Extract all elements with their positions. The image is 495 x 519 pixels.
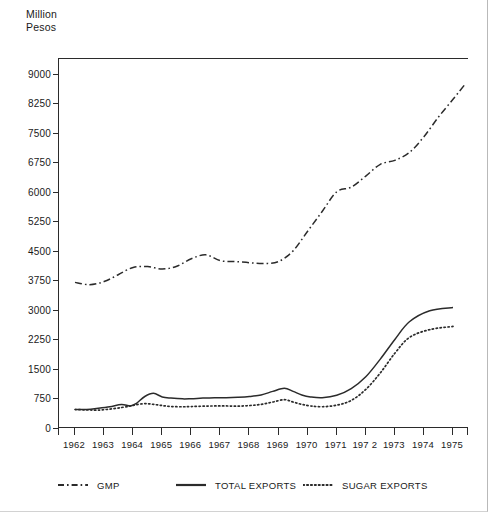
y-axis-tick-label: 9000: [28, 68, 51, 79]
x-axis-tick-label: 1965: [150, 439, 172, 450]
legend-line-swatch: [303, 480, 333, 490]
y-axis-tick-label: 5250: [28, 216, 51, 227]
x-axis-tick-label: 1966: [179, 439, 201, 450]
x-axis-tick-mark: [365, 428, 366, 435]
x-axis-tick-mark: [132, 428, 133, 435]
y-axis-title: Million Pesos: [26, 8, 57, 34]
y-axis-tick-mark: [53, 162, 59, 163]
y-axis-tick-mark: [53, 221, 59, 222]
x-axis-tick-mark: [336, 428, 337, 435]
x-axis-start-tick: [58, 428, 59, 435]
y-axis-tick-label: 6000: [28, 186, 51, 197]
x-axis-tick-mark: [248, 428, 249, 435]
x-axis-tick-label: 1973: [383, 439, 405, 450]
legend-label: GMP: [97, 480, 120, 491]
legend-item-sugar-exports[interactable]: SUGAR EXPORTS: [303, 477, 428, 493]
y-axis-tick-mark: [53, 369, 59, 370]
legend-line-swatch: [176, 480, 206, 490]
x-axis-tick-mark: [278, 428, 279, 435]
legend-label: TOTAL EXPORTS: [215, 480, 296, 491]
x-axis-tick-mark: [307, 428, 308, 435]
x-axis-tick-label: 1974: [412, 439, 434, 450]
series-line-gmp: [75, 85, 465, 285]
x-axis-tick-label: 1971: [325, 439, 347, 450]
x-axis-tick-mark: [190, 428, 191, 435]
x-axis-tick-label: 1967: [208, 439, 230, 450]
series-line-sugar-exports: [75, 326, 453, 410]
x-axis-tick-mark: [452, 428, 453, 435]
y-axis-tick-mark: [53, 192, 59, 193]
x-axis-tick-label: 1975: [441, 439, 463, 450]
y-axis-tick-label: 0: [45, 423, 51, 434]
x-axis-tick-label: 1969: [267, 439, 289, 450]
y-axis-tick-mark: [53, 251, 59, 252]
chart-page: Million Pesos 07501500225030003750450052…: [0, 0, 495, 519]
x-axis-end-tick: [467, 428, 468, 435]
x-axis-tick-mark: [161, 428, 162, 435]
chart-legend: GMPTOTAL EXPORTSSUGAR EXPORTS: [58, 477, 458, 493]
x-axis-tick-label: 1964: [121, 439, 143, 450]
y-axis-tick-label: 750: [34, 393, 51, 404]
x-axis-tick-label: 1968: [237, 439, 259, 450]
y-axis-tick-label: 6750: [28, 157, 51, 168]
x-axis: 1962196319641965196619671968196919701971…: [58, 427, 468, 428]
legend-label: SUGAR EXPORTS: [342, 480, 428, 491]
y-axis-tick-label: 2250: [28, 334, 51, 345]
x-axis-tick-mark: [219, 428, 220, 435]
y-axis-tick-mark: [53, 280, 59, 281]
y-axis-tick-mark: [53, 103, 59, 104]
x-axis-tick-label: 1963: [92, 439, 114, 450]
x-axis-tick-mark: [423, 428, 424, 435]
y-axis-tick-label: 3000: [28, 304, 51, 315]
y-axis-tick-mark: [53, 133, 59, 134]
y-axis-tick-mark: [53, 310, 59, 311]
y-axis-tick-mark: [53, 74, 59, 75]
plot-lines: [59, 59, 469, 428]
legend-item-total-exports[interactable]: TOTAL EXPORTS: [176, 477, 296, 493]
legend-item-gmp[interactable]: GMP: [58, 477, 120, 493]
x-axis-tick-label: 1970: [296, 439, 318, 450]
y-axis-tick-label: 8250: [28, 98, 51, 109]
y-axis-tick-label: 3750: [28, 275, 51, 286]
x-axis-tick-mark: [103, 428, 104, 435]
y-axis-tick-mark: [53, 339, 59, 340]
y-axis-tick-label: 4500: [28, 245, 51, 256]
x-axis-tick-label: 197 2: [352, 439, 377, 450]
series-line-total-exports: [75, 308, 453, 410]
y-axis-tick-mark: [53, 398, 59, 399]
y-axis-tick-label: 1500: [28, 363, 51, 374]
x-axis-tick-mark: [394, 428, 395, 435]
legend-line-swatch: [58, 480, 88, 490]
plot-area: 0750150022503000375045005250600067507500…: [58, 58, 468, 427]
x-axis-tick-label: 1962: [63, 439, 85, 450]
y-axis-tick-label: 7500: [28, 127, 51, 138]
x-axis-tick-mark: [74, 428, 75, 435]
